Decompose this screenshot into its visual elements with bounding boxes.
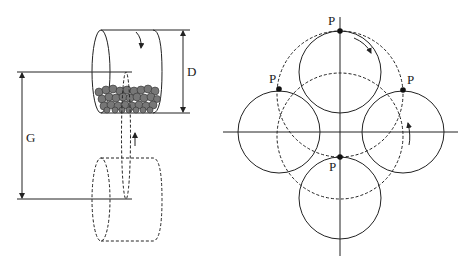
p-label-bottom: P	[329, 159, 336, 174]
rotation-arrow-icon	[354, 38, 371, 53]
balls	[95, 85, 161, 113]
diagram-canvas: D G P P P P	[0, 0, 471, 269]
diameter-label: D	[187, 64, 196, 79]
p-label-top: P	[328, 13, 335, 28]
rotation-arrow-icon	[408, 123, 410, 145]
left-panel: D G	[17, 30, 196, 241]
point-p-left	[276, 86, 282, 92]
gap-label: G	[26, 130, 35, 145]
rotation-arrow-icon	[136, 32, 141, 48]
point-p-top	[337, 28, 343, 34]
p-label-right: P	[407, 72, 414, 87]
point-p-bottom	[337, 154, 343, 160]
right-panel: P P P P	[223, 13, 458, 256]
point-p-right	[400, 87, 406, 93]
p-label-left: P	[269, 71, 276, 86]
